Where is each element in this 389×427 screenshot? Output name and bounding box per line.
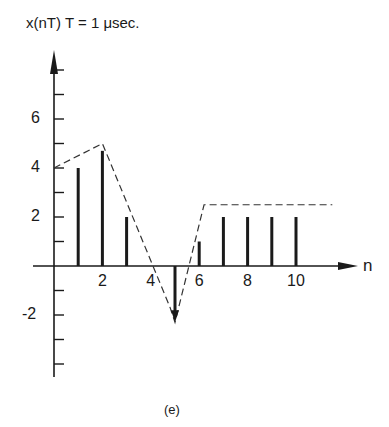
y-tick-label: 2 [31, 207, 40, 225]
chart-title: x(nT) T = 1 μsec. [26, 14, 140, 31]
axes [33, 50, 358, 377]
y-tick-label: 4 [31, 158, 40, 176]
x-tick-label: 8 [243, 272, 252, 290]
x-tick-label: 10 [287, 272, 305, 290]
x-tick-label: 4 [146, 272, 155, 290]
envelope-path [54, 144, 332, 323]
x-axis-label: n [363, 256, 372, 276]
x-tick-label: 2 [98, 272, 107, 290]
x-axis-arrow-icon [338, 262, 358, 270]
stem-plot [0, 0, 389, 427]
y-tick-label: 6 [31, 109, 40, 127]
y-tick-label: -2 [22, 305, 36, 323]
dashed-envelope-line [54, 144, 332, 323]
axis-ticks [54, 70, 64, 364]
sample-stems [78, 151, 296, 323]
figure-caption: (e) [164, 402, 180, 417]
x-tick-label: 6 [195, 272, 204, 290]
stem-arrow-icon [171, 310, 179, 322]
